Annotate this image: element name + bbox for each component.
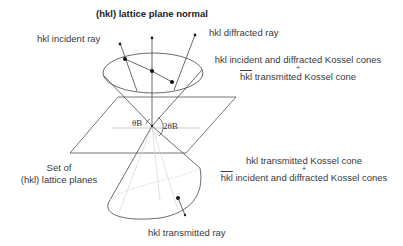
lattice-planes-label: Set of (hkl) lattice planes bbox=[14, 162, 104, 186]
upper-cone-label: hkl incident and diffracted Kossel cones… bbox=[204, 54, 392, 82]
lower-cone-rim bbox=[108, 168, 201, 219]
lower-cone-line2: incident and diffracted Kossel cones bbox=[233, 172, 388, 183]
upper-cone-hkl-bar: hkl bbox=[240, 71, 252, 82]
upper-cone-rim bbox=[103, 53, 203, 93]
theta-b-label: θB bbox=[132, 118, 142, 128]
incident-point bbox=[123, 57, 127, 61]
lower-cone-label: hkl transmitted Kossel cone + hkl incide… bbox=[210, 155, 398, 183]
normal-point bbox=[150, 69, 154, 73]
planes-line2: (hkl) lattice planes bbox=[21, 174, 98, 185]
diffracted-ray-label: hkl diffracted ray bbox=[209, 27, 279, 38]
transmitted-ray-label: hkl transmitted ray bbox=[148, 227, 226, 238]
incident-ray-label: hkl incident ray bbox=[37, 33, 100, 44]
diffracted-point bbox=[170, 80, 174, 84]
lower-cone-hkl-bar: hkl bbox=[221, 172, 233, 183]
upper-cone-line2: transmitted Kossel cone bbox=[252, 71, 356, 82]
plane-normal-label: (hkl) lattice plane normal bbox=[96, 8, 208, 19]
planes-line1: Set of bbox=[47, 162, 72, 173]
two-theta-b-label: 2θB bbox=[163, 121, 178, 131]
